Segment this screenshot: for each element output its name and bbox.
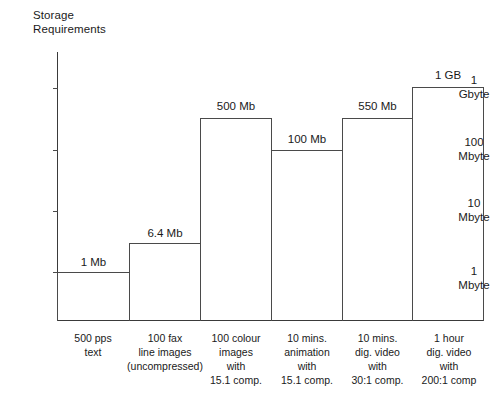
category-label-100-colour-images: 100 colour images with 15.1 comp.: [198, 331, 274, 387]
bar-value-label-1: 1 Mb: [57, 256, 130, 269]
y-tick-mark-100mbyte: [53, 150, 58, 151]
bar-value-label-5: 550 Mb: [342, 100, 413, 113]
bar-value-label-4: 100 Mb: [271, 133, 343, 146]
y-tick-mark-1gbyte: [53, 88, 58, 89]
bar-1-hour-dig-video[interactable]: [412, 87, 484, 321]
bar-100-colour-images[interactable]: [200, 118, 272, 321]
bar-value-label-6: 1 GB: [412, 69, 484, 82]
category-label-1-hour-dig-video: 1 hour dig. video with 200:1 comp: [407, 331, 491, 387]
bar-chart: Storage Requirements 1 Gbyte 100 Mbyte 1…: [0, 0, 500, 399]
category-label-10-mins-dig-video: 10 mins. dig. video with 30:1 comp.: [338, 331, 417, 387]
bar-100-fax-line-images[interactable]: [129, 243, 201, 321]
bar-value-label-3: 500 Mb: [200, 100, 272, 113]
category-label-10-mins-animation: 10 mins. animation with 15.1 comp.: [267, 331, 347, 387]
chart-title: Storage Requirements: [33, 8, 106, 36]
bar-value-label-2: 6.4 Mb: [129, 227, 201, 240]
y-tick-mark-10mbyte: [53, 211, 58, 212]
bar-500-pps-text[interactable]: [57, 272, 130, 321]
bar-10-mins-animation[interactable]: [271, 150, 343, 321]
bar-10-mins-dig-video[interactable]: [342, 118, 413, 321]
